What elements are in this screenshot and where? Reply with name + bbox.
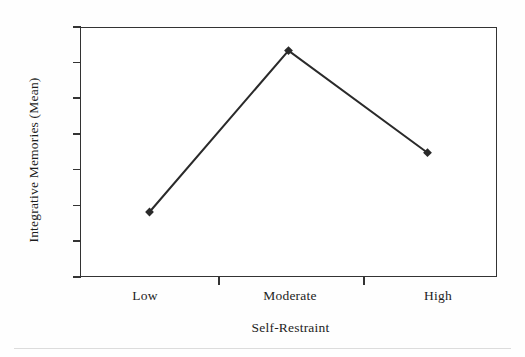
line-chart-figure: 4.5 4 3.5 3 2.5 2 1.5 1 [0, 0, 525, 357]
series-markers [145, 46, 432, 216]
scan-artifact-rule [14, 348, 511, 349]
data-series-layer [0, 0, 525, 357]
series-line [150, 51, 428, 212]
